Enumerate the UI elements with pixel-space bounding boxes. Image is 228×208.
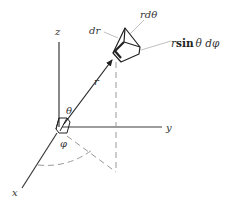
x-axis: [22, 133, 57, 188]
phi-label: φ: [60, 138, 67, 149]
dr-leader: [104, 32, 118, 38]
dr-label: dr: [89, 25, 101, 36]
rdtheta-label: rdθ: [140, 9, 157, 20]
phi-arc-dashed: [38, 150, 92, 165]
spherical-coordinates-diagram: z y x r θ φ dr rdθ rsinθ dφ: [0, 0, 228, 208]
theta-label: θ: [66, 105, 72, 116]
y-axis-label: y: [165, 122, 172, 133]
volume-element-box: [113, 28, 140, 62]
projection-base-dashed: [67, 136, 116, 172]
origin-volume-element: [56, 118, 70, 133]
rsin-label: rsinθ dφ: [171, 37, 220, 49]
x-axis-label: x: [12, 187, 18, 198]
z-axis-label: z: [54, 26, 61, 37]
rdtheta-leader: [130, 20, 144, 34]
rsin-func: sin: [176, 37, 194, 49]
rsin-suffix: θ dφ: [196, 37, 220, 49]
rsin-leader: [141, 41, 171, 50]
